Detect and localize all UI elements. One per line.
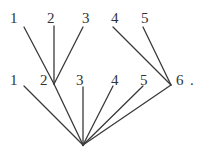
edge-junctionB-root bbox=[83, 85, 171, 145]
middle-label-1: 1 bbox=[10, 72, 18, 88]
edge-mid4-root bbox=[83, 86, 113, 145]
middle-label-3: 3 bbox=[76, 72, 84, 88]
tree-diagram: 1 2 3 4 5 1 2 3 4 5 6 . bbox=[0, 0, 202, 152]
middle-label-2: 2 bbox=[40, 72, 48, 88]
top-label-2: 2 bbox=[47, 10, 55, 26]
edge-junctionA-root bbox=[54, 84, 83, 145]
root-node bbox=[82, 144, 84, 146]
top-label-1: 1 bbox=[10, 10, 18, 26]
edge-mid1-root bbox=[24, 86, 83, 145]
edge-top1-junctionA bbox=[24, 27, 54, 84]
middle-label-6: 6 bbox=[176, 72, 184, 88]
trailing-period: . bbox=[190, 72, 194, 88]
middle-label-4: 4 bbox=[111, 72, 119, 88]
middle-label-5: 5 bbox=[140, 72, 148, 88]
top-label-5: 5 bbox=[141, 10, 149, 26]
top-label-3: 3 bbox=[82, 10, 90, 26]
top-label-4: 4 bbox=[111, 10, 119, 26]
edge-mid5-root bbox=[83, 86, 143, 145]
